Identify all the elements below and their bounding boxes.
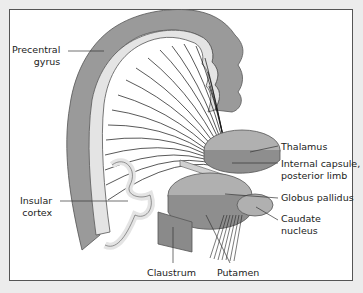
label-thalamus: Thalamus (281, 141, 327, 153)
label-caudate-nucleus: Caudate nucleus (281, 213, 321, 236)
label-claustrum: Claustrum (147, 267, 196, 279)
label-internal-capsule: Internal capsule, posterior limb (281, 158, 360, 181)
label-insular-cortex: Insular cortex (20, 195, 52, 218)
label-putamen: Putamen (217, 267, 259, 279)
label-precentral-gyrus: Precentral gyrus (12, 44, 60, 67)
label-globus-pallidus: Globus pallidus (281, 192, 354, 204)
